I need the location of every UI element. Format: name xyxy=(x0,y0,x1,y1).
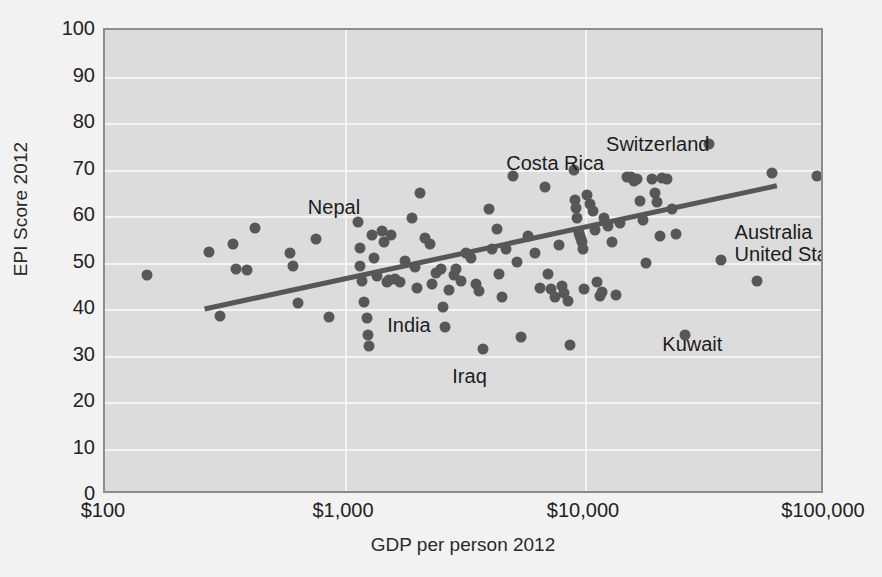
annotation-label: Switzerland xyxy=(606,132,709,155)
annotation-label: India xyxy=(387,314,430,337)
y-tick-label: 30 xyxy=(25,342,95,365)
annotation-label: Nepal xyxy=(308,195,360,218)
y-tick-label: 40 xyxy=(25,296,95,319)
chart-figure: EPI Score 2012 0102030405060708090100 Ne… xyxy=(0,0,882,577)
annotation-label: Costa Rica xyxy=(506,151,604,174)
plot-area: NepalCosta RicaSwitzerlandAustraliaUnite… xyxy=(103,28,823,493)
annotation-label: Australia xyxy=(735,221,813,244)
y-tick-label: 10 xyxy=(25,435,95,458)
y-tick-label: 90 xyxy=(25,63,95,86)
x-tick-label: $10,000 xyxy=(503,499,663,522)
y-tick-label: 80 xyxy=(25,110,95,133)
annotation-label: Kuwait xyxy=(662,332,722,355)
trendline xyxy=(105,30,821,491)
y-tick-label: 70 xyxy=(25,156,95,179)
y-tick-label: 50 xyxy=(25,249,95,272)
x-tick-label: $1,000 xyxy=(263,499,423,522)
x-axis-label: GDP per person 2012 xyxy=(103,534,823,556)
y-tick-label: 60 xyxy=(25,203,95,226)
annotation-label: Iraq xyxy=(452,365,486,388)
annotation-label: United States xyxy=(735,243,823,266)
x-tick-label: $100,000 xyxy=(743,499,882,522)
x-tick-label: $100 xyxy=(23,499,183,522)
y-tick-label: 100 xyxy=(25,17,95,40)
y-tick-label: 20 xyxy=(25,389,95,412)
